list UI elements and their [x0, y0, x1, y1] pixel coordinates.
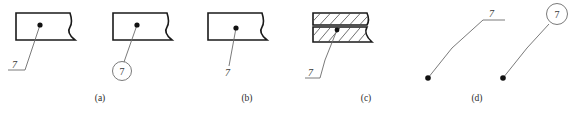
panel-b-value-label: 7 [225, 67, 231, 78]
panel-b-reference-dot [233, 25, 238, 30]
panel-a-broken-rectangle [16, 13, 75, 40]
panel-a-circle-broken-rectangle [113, 13, 172, 40]
panel-d-shelf-reference-dot [425, 75, 431, 81]
technical-drawing-figure: 7 7 7 [0, 0, 574, 115]
panel-d-circle-value-label: 7 [555, 9, 560, 20]
panel-d-circle-leader-line [503, 24, 549, 78]
panel-d-shelf-group: 7 [425, 8, 505, 81]
panel-d-shelf-leader-line [428, 20, 505, 78]
panel-a-circle-value-label: 7 [120, 66, 125, 77]
drawing-canvas: 7 7 7 [0, 0, 574, 115]
panel-a-circle-group: 7 [113, 13, 173, 81]
panel-b-group: 7 [208, 13, 267, 78]
panel-c-lower-band [313, 27, 372, 42]
panel-d-shelf-value-label: 7 [489, 8, 495, 19]
panel-c-value-label: 7 [308, 67, 314, 78]
panel-a-reference-dot [37, 22, 42, 27]
panel-d-circle-reference-dot [500, 75, 506, 81]
panel-a-value-label: 7 [12, 59, 18, 70]
panel-a-circle-reference-dot [134, 22, 139, 27]
panel-c-reference-dot [335, 28, 340, 33]
panel-d-circle-group: 7 [500, 4, 567, 81]
panel-c-group: 7 [303, 6, 377, 78]
panel-a-group: 7 [8, 13, 75, 70]
